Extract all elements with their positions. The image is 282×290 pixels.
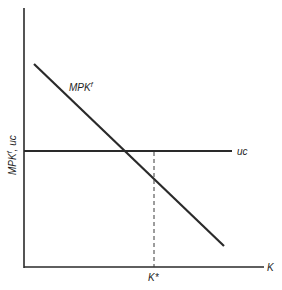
diagram-canvas: MPKf uc K K* MPKf, uc	[0, 0, 282, 290]
mpk-curve	[34, 64, 224, 246]
y-axis-label: MPKf, uc	[6, 135, 18, 175]
equilibrium-k-label: K*	[148, 272, 160, 283]
x-axis-label: K	[267, 262, 275, 273]
uc-curve-label: uc	[237, 146, 248, 157]
mpk-curve-label: MPKf	[69, 81, 94, 93]
